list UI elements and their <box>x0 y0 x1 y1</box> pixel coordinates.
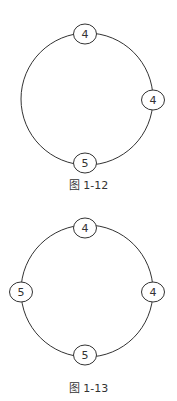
ring-node-label: 5 <box>82 157 89 170</box>
ring-circle <box>21 33 153 165</box>
ring-node-label: 5 <box>82 349 89 362</box>
ring-node-label: 4 <box>82 28 89 41</box>
ring-node-label: 4 <box>150 286 157 299</box>
figure-caption-1-12: 图 1-12 <box>0 176 177 192</box>
ring-figure-2: 4545 <box>10 218 165 365</box>
ring-node-label: 4 <box>150 94 157 107</box>
ring-circle <box>21 225 153 357</box>
figure-caption-1-13: 图 1-13 <box>0 379 177 395</box>
ring-diagrams: 4454545 <box>0 0 177 401</box>
ring-node-label: 5 <box>18 286 25 299</box>
ring-node-label: 4 <box>82 222 89 235</box>
ring-figure-1: 445 <box>21 24 165 173</box>
